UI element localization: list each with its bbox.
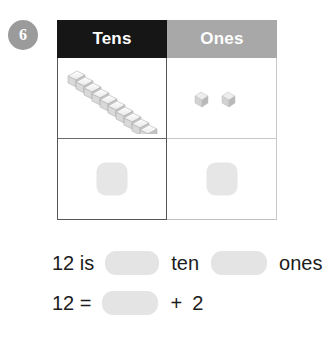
tens-blocks-cell xyxy=(57,58,167,139)
ten-blank-field[interactable] xyxy=(105,251,159,275)
unit-cube-icon xyxy=(195,92,235,107)
line2-operator-label: + xyxy=(170,293,182,313)
question-number-badge: 6 xyxy=(8,20,38,50)
sentence-line-2: 12 = + 2 xyxy=(52,288,203,318)
column-header-tens-label: Tens xyxy=(92,29,131,49)
line1-prefix-label: 12 is xyxy=(52,253,94,273)
ones-blocks-cell xyxy=(167,58,277,139)
ten-rod-icon xyxy=(66,64,160,134)
unit-cubes-group-icon xyxy=(167,58,277,139)
sum-blank-field[interactable] xyxy=(102,291,158,315)
table-row xyxy=(57,58,277,139)
line2-addend-label: 2 xyxy=(192,293,203,313)
tens-answer-cell xyxy=(57,139,167,220)
column-header-ones-label: Ones xyxy=(200,29,243,49)
column-header-tens: Tens xyxy=(57,20,167,58)
ones-answer-cell xyxy=(167,139,277,220)
line1-ten-label: ten xyxy=(171,253,199,273)
question-number-label: 6 xyxy=(19,27,27,43)
column-header-ones: Ones xyxy=(167,20,277,58)
line2-prefix-label: 12 = xyxy=(52,293,91,313)
table-header-row: Tens Ones xyxy=(57,20,277,58)
place-value-table: Tens Ones xyxy=(57,20,277,220)
line1-ones-label: ones xyxy=(279,253,322,273)
tens-answer-box[interactable] xyxy=(97,163,128,196)
ones-answer-box[interactable] xyxy=(206,163,237,196)
sentence-line-1: 12 is ten ones xyxy=(52,248,322,278)
table-row xyxy=(57,139,277,220)
ones-blank-field[interactable] xyxy=(211,251,267,275)
